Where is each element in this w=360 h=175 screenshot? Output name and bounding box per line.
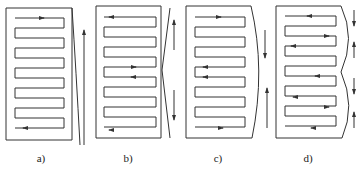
serpentine-diagram xyxy=(0,0,360,175)
panel-b-label: b) xyxy=(113,152,143,164)
panel-d xyxy=(276,6,354,138)
panel-c-label: c) xyxy=(203,152,233,164)
panel-b xyxy=(96,6,174,138)
panel-d-label: d) xyxy=(293,152,323,164)
panel-c xyxy=(186,6,267,138)
panel-a-label: a) xyxy=(26,152,56,164)
panel-a xyxy=(6,8,84,145)
